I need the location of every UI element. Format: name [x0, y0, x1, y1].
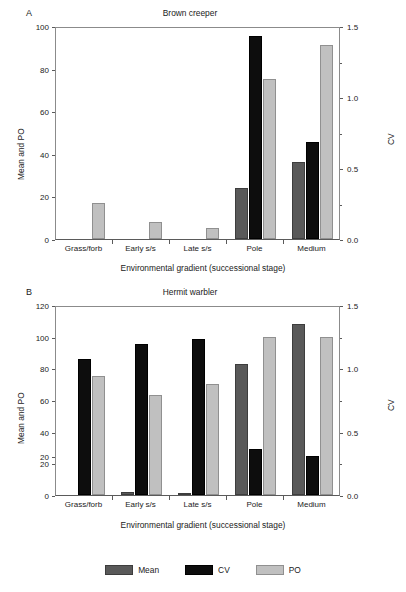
bar-cv-pole	[249, 36, 262, 239]
y-tick-label-right: 1.0	[347, 365, 358, 374]
y-tick-label-right: 0.0	[347, 236, 358, 245]
panel-b-xlabel: Environmental gradient (successional sta…	[0, 520, 406, 530]
x-category-label: Grass/forb	[65, 500, 102, 509]
panel-b: B Hermit warbler Mean and PO CV Environm…	[0, 286, 406, 536]
x-tick-mark	[112, 496, 113, 500]
y-tick-label-left: 20	[27, 453, 49, 462]
y-tick-mark-left	[52, 401, 55, 402]
y-tick-label-left: 0	[27, 492, 49, 501]
x-category-label: Late s/s	[183, 244, 211, 253]
bar-cv-medium	[306, 142, 319, 239]
y-tick-mark-left	[52, 70, 55, 71]
y-tick-label-right: 1.0	[347, 94, 358, 103]
bar-mean-late-s-s	[178, 493, 191, 495]
y-tick-mark-left	[52, 240, 55, 241]
bar-po-grass-forb	[92, 376, 105, 495]
y-tick-label-left: 80	[27, 65, 49, 74]
x-tick-mark	[169, 240, 170, 244]
bar-mean-pole	[235, 188, 248, 239]
y-tick-label-left: 120	[27, 302, 49, 311]
bar-mean-early-s-s	[121, 492, 134, 495]
x-category-label: Early s/s	[125, 500, 156, 509]
y-tick-mark-right-minor	[340, 338, 342, 339]
y-tick-mark-right-minor	[340, 205, 342, 206]
legend-swatch-po-icon	[256, 565, 284, 575]
figure-root: A Brown creeper Mean and PO CV Environme…	[0, 0, 406, 592]
legend-swatch-cv-icon	[185, 565, 213, 575]
y-tick-label-left: 0	[27, 236, 49, 245]
bar-po-late-s-s	[206, 228, 219, 239]
y-tick-mark-right	[340, 169, 343, 170]
x-category-label: Pole	[246, 500, 262, 509]
panel-b-letter: B	[26, 287, 32, 297]
y-tick-mark-right	[340, 369, 343, 370]
y-tick-mark-left	[52, 197, 55, 198]
y-tick-mark-left	[52, 496, 55, 497]
y-tick-mark-left	[52, 27, 55, 28]
bar-po-late-s-s	[206, 384, 219, 495]
x-tick-mark	[112, 240, 113, 244]
y-tick-mark-left	[52, 112, 55, 113]
legend-label-cv: CV	[218, 565, 230, 575]
y-tick-label-left: 60	[27, 397, 49, 406]
bar-cv-grass-forb	[78, 359, 91, 495]
y-tick-label-right: 1.5	[347, 23, 358, 32]
bar-po-medium	[320, 337, 333, 495]
y-tick-label-left: 40	[27, 150, 49, 159]
y-tick-mark-right-minor	[340, 401, 342, 402]
x-tick-mark	[283, 496, 284, 500]
legend-item-po: PO	[256, 565, 301, 575]
panel-b-ylabel-right: CV	[386, 399, 396, 411]
bar-mean-pole	[235, 364, 248, 495]
y-tick-label-left: 20	[27, 193, 49, 202]
y-tick-label-right: 0.5	[347, 165, 358, 174]
bar-mean-medium	[292, 324, 305, 495]
y-tick-label-left: 80	[27, 365, 49, 374]
panel-a-ylabel-left: Mean and PO	[16, 128, 26, 180]
y-tick-label-left: 60	[27, 108, 49, 117]
x-category-label: Pole	[246, 244, 262, 253]
bar-po-grass-forb	[92, 203, 105, 239]
bar-cv-late-s-s	[192, 339, 205, 495]
panel-a-title: Brown creeper	[60, 8, 320, 18]
y-tick-label-left: 100	[27, 333, 49, 342]
legend-item-mean: Mean	[105, 565, 159, 575]
panel-a-letter: A	[26, 8, 32, 18]
y-tick-mark-left	[52, 457, 55, 458]
panel-a-plot-area	[55, 27, 340, 240]
bar-cv-medium	[306, 456, 319, 495]
y-tick-mark-left	[52, 464, 55, 465]
x-category-label: Medium	[297, 500, 325, 509]
panel-a: A Brown creeper Mean and PO CV Environme…	[0, 0, 406, 286]
bar-cv-pole	[249, 449, 262, 495]
panel-b-plot-area	[55, 306, 340, 496]
panel-b-ylabel-left: Mean and PO	[16, 392, 26, 444]
legend-label-po: PO	[289, 565, 301, 575]
bar-po-early-s-s	[149, 395, 162, 495]
y-tick-mark-right-minor	[340, 464, 342, 465]
y-tick-mark-left	[52, 433, 55, 434]
y-tick-mark-left	[52, 155, 55, 156]
panel-a-xlabel: Environmental gradient (successional sta…	[0, 263, 406, 273]
x-tick-mark	[226, 240, 227, 244]
bar-po-pole	[263, 337, 276, 495]
y-tick-label-left: 40	[27, 428, 49, 437]
y-tick-mark-right-minor	[340, 134, 342, 135]
bar-po-early-s-s	[149, 222, 162, 239]
bar-po-medium	[320, 45, 333, 239]
y-tick-mark-left	[52, 338, 55, 339]
y-tick-mark-left	[52, 369, 55, 370]
legend-item-cv: CV	[185, 565, 230, 575]
legend-swatch-mean-icon	[105, 565, 133, 575]
panel-a-bars	[56, 28, 339, 239]
x-category-label: Grass/forb	[65, 244, 102, 253]
bar-mean-medium	[292, 162, 305, 239]
bar-cv-early-s-s	[135, 344, 148, 495]
y-tick-mark-left	[52, 306, 55, 307]
bar-po-pole	[263, 79, 276, 239]
legend-label-mean: Mean	[138, 565, 159, 575]
x-category-label: Medium	[297, 244, 325, 253]
y-tick-mark-right	[340, 306, 343, 307]
y-tick-mark-right	[340, 27, 343, 28]
y-tick-mark-right	[340, 433, 343, 434]
